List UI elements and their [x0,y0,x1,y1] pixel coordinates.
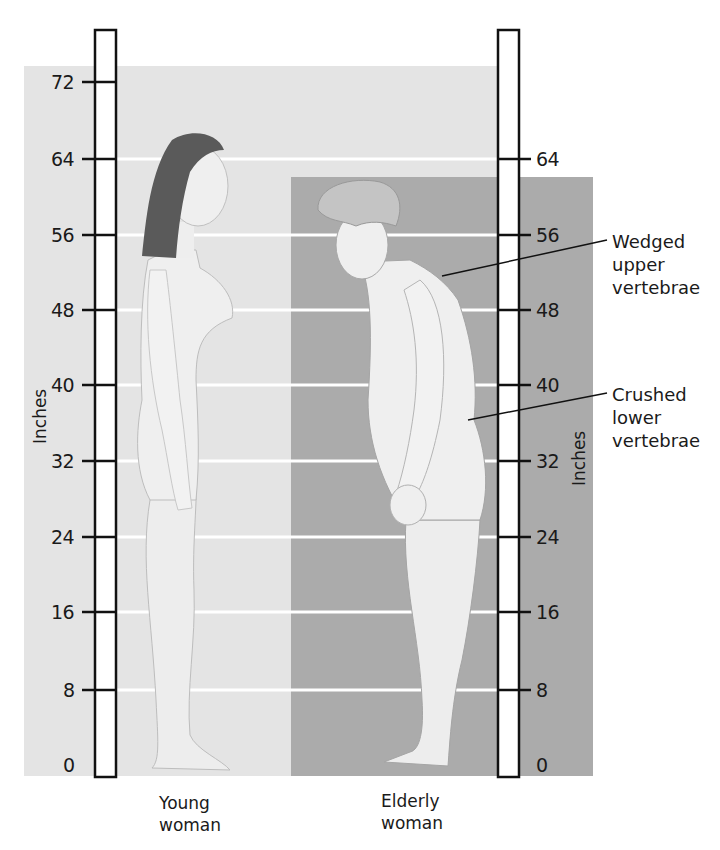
elderly-woman-figure [318,180,486,766]
right-tick-0: 0 [536,756,548,775]
elderly-woman-caption: Elderly woman [381,790,443,834]
left-tick-8: 8 [63,681,75,700]
right-tick-56: 56 [536,226,559,245]
right-tick-40: 40 [536,376,559,395]
crushed-vertebrae-leader-line [468,393,607,420]
right-ruler [498,30,531,777]
left-tick-32: 32 [51,452,74,471]
left-ruler [82,30,116,777]
left-tick-48: 48 [51,301,74,320]
crushed-vertebrae-label: Crushed lower vertebrae [612,383,700,452]
young-woman-caption: Young woman [159,792,221,836]
right-tick-32: 32 [536,452,559,471]
wedged-vertebrae-label: Wedged upper vertebrae [612,230,700,299]
right-axis-label: Inches [569,431,589,486]
left-tick-72: 72 [51,73,74,92]
left-tick-0: 0 [63,756,75,775]
right-tick-48: 48 [536,301,559,320]
left-tick-64: 64 [51,150,74,169]
right-tick-24: 24 [536,528,559,547]
wedged-vertebrae-leader-line [442,240,607,276]
left-tick-24: 24 [51,528,74,547]
right-tick-16: 16 [536,603,559,622]
left-tick-16: 16 [51,603,74,622]
right-tick-8: 8 [536,681,548,700]
young-woman-figure [138,133,233,770]
left-axis-label: Inches [30,389,50,444]
left-tick-56: 56 [51,226,74,245]
left-tick-40: 40 [51,376,74,395]
right-tick-64: 64 [536,150,559,169]
